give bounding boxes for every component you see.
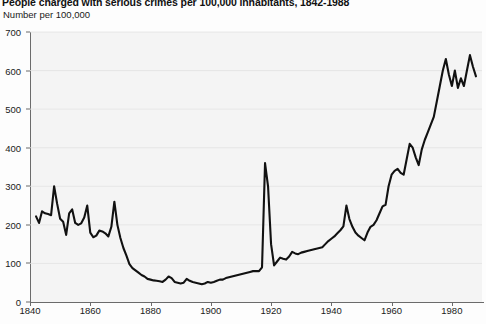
y-axis-tick-mark bbox=[26, 224, 30, 225]
x-axis-tick-mark bbox=[151, 302, 152, 306]
x-axis-line bbox=[30, 302, 484, 303]
x-axis-tick-mark bbox=[271, 302, 272, 306]
x-axis-tick-mark bbox=[331, 302, 332, 306]
y-axis-tick-label: 200 bbox=[5, 219, 21, 230]
y-axis-tick-label: 600 bbox=[5, 65, 21, 76]
y-axis-tick-mark bbox=[26, 32, 30, 33]
plot-area bbox=[30, 32, 482, 302]
x-axis-tick-label: 1980 bbox=[441, 305, 462, 316]
chart-figure: People charged with serious crimes per 1… bbox=[0, 0, 486, 324]
x-axis-tick-mark bbox=[211, 302, 212, 306]
y-axis-tick-label: 400 bbox=[5, 142, 21, 153]
chart-title: People charged with serious crimes per 1… bbox=[2, 0, 349, 8]
y-axis-tick-label: 500 bbox=[5, 104, 21, 115]
y-axis-tick-label: 100 bbox=[5, 258, 21, 269]
x-axis-tick-label: 1900 bbox=[200, 305, 221, 316]
y-axis-tick-mark bbox=[26, 186, 30, 187]
y-axis-tick-label: 300 bbox=[5, 181, 21, 192]
x-axis-tick-mark bbox=[30, 302, 31, 306]
x-axis-tick-mark bbox=[452, 302, 453, 306]
x-axis-tick-label: 1880 bbox=[140, 305, 161, 316]
x-axis-tick-label: 1840 bbox=[19, 305, 40, 316]
y-axis: 0100200300400500600700 bbox=[0, 0, 30, 324]
y-axis-tick-mark bbox=[26, 70, 30, 71]
y-axis-tick-label: 700 bbox=[5, 27, 21, 38]
y-axis-tick-mark bbox=[26, 147, 30, 148]
x-axis-tick-label: 1940 bbox=[321, 305, 342, 316]
y-axis-tick-mark bbox=[26, 263, 30, 264]
x-axis-tick-mark bbox=[90, 302, 91, 306]
x-axis-tick-label: 1920 bbox=[260, 305, 281, 316]
x-axis-tick-label: 1960 bbox=[381, 305, 402, 316]
x-axis-tick-label: 1860 bbox=[80, 305, 101, 316]
x-axis-tick-mark bbox=[392, 302, 393, 306]
y-axis-tick-mark bbox=[26, 109, 30, 110]
